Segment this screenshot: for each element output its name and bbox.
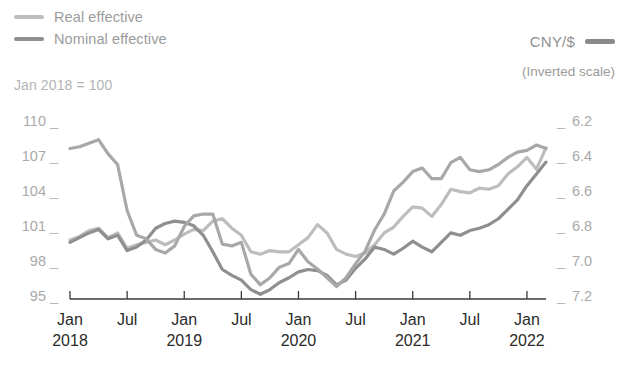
x-axis-label-year: 2021 <box>378 330 448 352</box>
x-axis-label-month: Jan <box>492 310 562 330</box>
chart-container: Real effective Nominal effective CNY/$ (… <box>0 0 629 375</box>
x-axis-label-year: 2022 <box>492 330 562 352</box>
x-axis-label-year: 2018 <box>35 330 105 352</box>
x-axis-label-year: 2020 <box>263 330 333 352</box>
x-axis-label-8: Jan2022 <box>492 310 562 352</box>
x-axis-label-year: 2019 <box>149 330 219 352</box>
